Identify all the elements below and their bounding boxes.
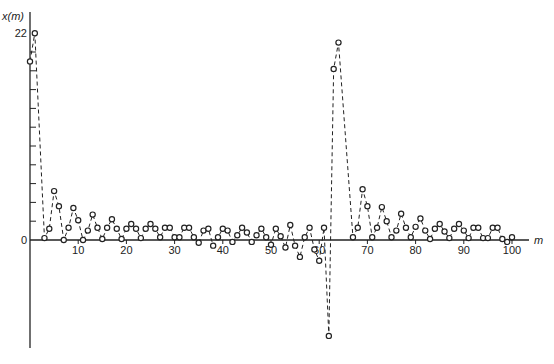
data-point-marker — [326, 333, 331, 338]
series-dashed-line — [30, 33, 512, 336]
y-axis-tick-labels: 022 — [15, 27, 27, 246]
data-point-marker — [71, 205, 76, 210]
y-tick-label: 22 — [15, 27, 27, 39]
data-point-marker — [456, 221, 461, 226]
data-point-marker — [66, 225, 71, 230]
x-tick-label: 70 — [361, 244, 373, 256]
data-point-marker — [211, 243, 216, 248]
data-point-marker — [418, 216, 423, 221]
data-point-marker — [167, 225, 172, 230]
data-point-marker — [297, 254, 302, 259]
data-point-marker — [235, 233, 240, 238]
data-point-marker — [133, 226, 138, 231]
data-point-marker — [153, 226, 158, 231]
data-point-marker — [355, 225, 360, 230]
data-point-marker — [379, 205, 384, 210]
data-point-marker — [80, 237, 85, 242]
data-point-marker — [114, 226, 119, 231]
data-point-marker — [399, 211, 404, 216]
data-point-marker — [52, 189, 57, 194]
data-point-marker — [336, 40, 341, 45]
data-point-marker — [109, 217, 114, 222]
data-point-marker — [432, 226, 437, 231]
data-point-marker — [100, 236, 105, 241]
data-point-marker — [384, 219, 389, 224]
data-point-marker — [259, 226, 264, 231]
data-point-marker — [283, 245, 288, 250]
data-point-marker — [278, 234, 283, 239]
data-point-marker — [119, 236, 124, 241]
data-point-marker — [225, 228, 230, 233]
data-point-marker — [230, 239, 235, 244]
x-axis-title: m — [534, 234, 543, 246]
data-point-marker — [85, 228, 90, 233]
data-point-marker — [27, 59, 32, 64]
x-tick-label: 40 — [217, 244, 229, 256]
data-point-marker — [244, 230, 249, 235]
data-point-marker — [177, 235, 182, 240]
data-point-marker — [374, 225, 379, 230]
data-point-marker — [427, 236, 432, 241]
data-point-marker — [442, 229, 447, 234]
data-point-marker — [124, 226, 129, 231]
data-point-marker — [293, 243, 298, 248]
data-point-marker — [42, 236, 47, 241]
data-point-marker — [389, 235, 394, 240]
data-point-marker — [466, 236, 471, 241]
x-tick-label: 30 — [168, 244, 180, 256]
data-point-marker — [191, 235, 196, 240]
sequence-plot: x(m) 022 102030405060708090100 m — [0, 0, 554, 364]
data-point-marker — [273, 226, 278, 231]
data-point-marker — [32, 31, 37, 36]
y-tick-label: 0 — [21, 234, 27, 246]
data-point-marker — [312, 247, 317, 252]
data-point-marker — [143, 226, 148, 231]
data-point-marker — [196, 240, 201, 245]
x-tick-label: 90 — [458, 244, 470, 256]
data-point-marker — [76, 218, 81, 223]
data-point-marker — [365, 204, 370, 209]
data-point-marker — [186, 225, 191, 230]
data-point-marker — [95, 225, 100, 230]
data-point-marker — [268, 242, 273, 247]
x-tick-label: 80 — [409, 244, 421, 256]
data-point-marker — [509, 235, 514, 240]
data-point-marker — [331, 66, 336, 71]
data-point-marker — [138, 236, 143, 241]
data-point-marker — [239, 225, 244, 230]
data-point-marker — [129, 221, 134, 226]
data-point-marker — [206, 226, 211, 231]
data-point-marker — [215, 235, 220, 240]
y-axis-title: x(m) — [1, 10, 24, 22]
data-point-marker — [370, 235, 375, 240]
data-point-marker — [485, 236, 490, 241]
data-point-marker — [413, 224, 418, 229]
data-point-marker — [461, 228, 466, 233]
data-point-marker — [61, 237, 66, 242]
data-point-marker — [452, 226, 457, 231]
data-point-marker — [495, 225, 500, 230]
data-point-marker — [321, 225, 326, 230]
data-point-marker — [408, 235, 413, 240]
data-point-marker — [437, 221, 442, 226]
data-point-marker — [249, 239, 254, 244]
data-point-marker — [254, 233, 259, 238]
data-series — [27, 31, 514, 339]
data-point-marker — [90, 212, 95, 217]
data-point-marker — [148, 221, 153, 226]
data-point-marker — [302, 235, 307, 240]
data-point-marker — [476, 225, 481, 230]
data-point-marker — [56, 204, 61, 209]
data-point-marker — [288, 222, 293, 227]
data-point-marker — [360, 187, 365, 192]
data-point-marker — [505, 239, 510, 244]
data-point-marker — [317, 258, 322, 263]
data-point-marker — [350, 235, 355, 240]
data-point-marker — [423, 228, 428, 233]
data-point-marker — [307, 225, 312, 230]
data-point-marker — [158, 235, 163, 240]
data-point-marker — [447, 236, 452, 241]
data-point-marker — [105, 225, 110, 230]
data-point-marker — [403, 225, 408, 230]
data-point-marker — [264, 235, 269, 240]
